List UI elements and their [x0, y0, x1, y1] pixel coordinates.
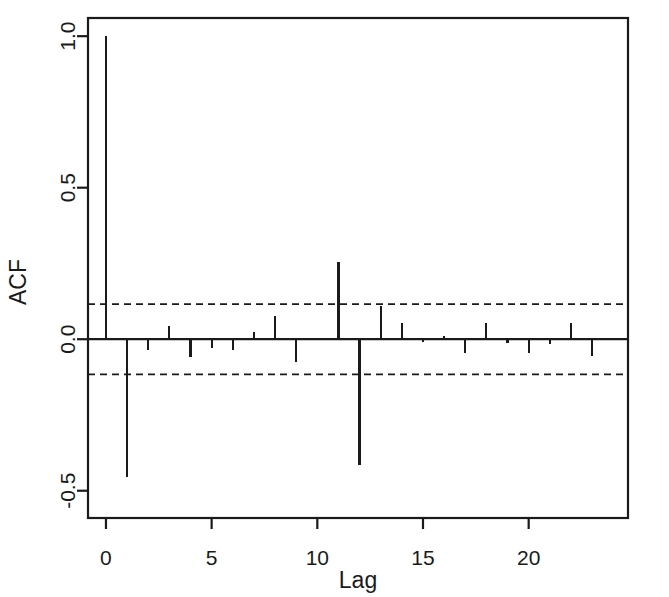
x-axis-tick-label: 20 [517, 546, 540, 569]
y-axis-tick-label: 1.0 [57, 22, 80, 51]
x-axis-title: Lag [339, 567, 377, 593]
y-axis-title: ACF [5, 259, 31, 305]
x-axis-tick-label: 15 [411, 546, 434, 569]
x-axis-tick-label: 5 [206, 546, 218, 569]
acf-plot-canvas: -0.50.00.51.0 05101520 ACF Lag [0, 0, 669, 597]
y-axis-tick-label: 0.0 [57, 325, 80, 354]
y-axis-tick-label: -0.5 [57, 473, 80, 509]
x-axis-tick-label: 10 [306, 546, 329, 569]
figure-background [0, 0, 669, 597]
x-axis-tick-label: 0 [100, 546, 112, 569]
acf-plot-figure: -0.50.00.51.0 05101520 ACF Lag [0, 0, 669, 597]
y-axis-tick-label: 0.5 [57, 173, 80, 202]
